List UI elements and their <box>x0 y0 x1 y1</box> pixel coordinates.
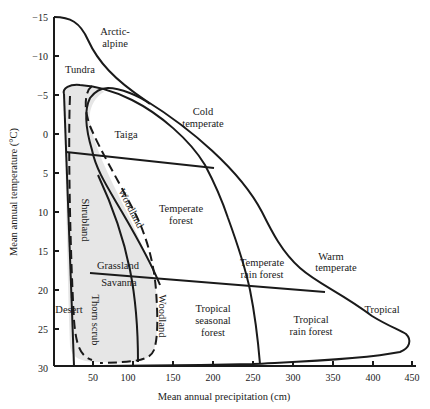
label-tropical-rain-forest-2: rain forest <box>290 326 333 337</box>
svg-text:300: 300 <box>286 372 301 383</box>
svg-text:10: 10 <box>38 207 48 218</box>
label-shrubland: Shrubland <box>80 198 91 242</box>
svg-text:100: 100 <box>121 372 136 383</box>
svg-text:150: 150 <box>166 372 181 383</box>
svg-text:250: 250 <box>246 372 261 383</box>
svg-text:−10: −10 <box>32 51 48 62</box>
svg-text:50: 50 <box>88 372 98 383</box>
label-tropical-seasonal-forest-1: Tropical <box>195 303 230 314</box>
label-savanna: Savanna <box>101 277 137 288</box>
label-tropical-seasonal-forest-3: forest <box>201 327 225 338</box>
biome-diagram: −15 −10 −5 0 5 10 15 20 25 30 50 100 150… <box>0 0 430 409</box>
label-tropical: Tropical <box>364 304 399 315</box>
x-axis-title: Mean annual precipitation (cm) <box>158 391 291 403</box>
label-temperate-forest-2: forest <box>169 215 193 226</box>
y-axis-tick-labels: −15 −10 −5 0 5 10 15 20 25 30 <box>32 12 48 374</box>
label-temperate-rain-forest-2: rain forest <box>241 269 284 280</box>
label-temperate-rain-forest-1: Temperate <box>240 257 284 268</box>
svg-text:0: 0 <box>43 129 48 140</box>
label-warm-temperate-2: temperate <box>315 262 357 273</box>
svg-text:30: 30 <box>38 363 48 374</box>
label-cold-temperate-2: temperate <box>182 118 224 129</box>
x-axis-tick-labels: 50 100 150 200 250 300 350 400 450 <box>88 372 420 383</box>
label-thorn-scrub: Thorn scrub <box>90 294 101 345</box>
label-tropical-seasonal-forest-2: seasonal <box>195 315 231 326</box>
svg-text:25: 25 <box>38 324 48 335</box>
svg-text:−15: −15 <box>32 12 48 23</box>
svg-text:200: 200 <box>206 372 221 383</box>
label-arctic-alpine-1: Arctic- <box>100 26 130 37</box>
label-taiga: Taiga <box>114 129 138 140</box>
svg-text:350: 350 <box>326 372 341 383</box>
label-tropical-rain-forest-1: Tropical <box>293 314 328 325</box>
svg-text:5: 5 <box>43 168 48 179</box>
y-axis-title: Mean annual temperature (°C) <box>8 127 20 256</box>
svg-text:−5: −5 <box>37 90 48 101</box>
label-desert: Desert <box>55 304 82 315</box>
svg-text:400: 400 <box>366 372 381 383</box>
label-tundra: Tundra <box>65 64 95 75</box>
label-woodland-lower: Woodland <box>157 295 168 339</box>
label-cold-temperate-1: Cold <box>193 106 214 117</box>
label-grassland: Grassland <box>97 260 140 271</box>
label-temperate-forest-1: Temperate <box>159 203 203 214</box>
label-arctic-alpine-2: alpine <box>102 38 128 49</box>
svg-text:15: 15 <box>38 246 48 257</box>
svg-text:20: 20 <box>38 285 48 296</box>
label-warm-temperate-1: Warm <box>318 251 343 262</box>
svg-text:450: 450 <box>405 372 420 383</box>
